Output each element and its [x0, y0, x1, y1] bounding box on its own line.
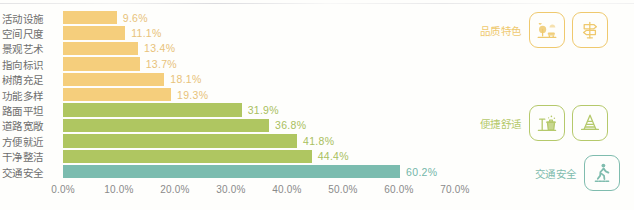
annotation-label: 品质特色: [470, 23, 522, 38]
category-label: 功能多样: [2, 87, 58, 102]
bar-row: 空间尺度 11.1%: [0, 25, 470, 40]
annotation-label: 交通安全: [525, 166, 577, 181]
pedestrian-crosswalk-icon: [584, 155, 620, 191]
category-label: 路面平坦: [2, 103, 58, 118]
x-tick-label: 40.0%: [272, 184, 301, 195]
bar-ample-shade: [63, 73, 164, 86]
annotation-group-comfort: 便捷舒适: [470, 105, 608, 141]
bar-row: 道路宽敞 36.8%: [0, 118, 470, 133]
category-label: 景观艺术: [2, 41, 58, 56]
bar-value-label: 19.3%: [177, 89, 208, 101]
x-tick-label: 30.0%: [216, 184, 245, 195]
annotation-group-safety: 交通安全: [525, 155, 620, 191]
bar-row: 指向标识 13.7%: [0, 56, 470, 71]
bar-row: 活动设施 9.6%: [0, 10, 470, 25]
annotation-column: 品质特色: [470, 0, 634, 210]
bar-row: 交通安全 60.2%: [0, 164, 470, 179]
park-landscape-icon: [529, 12, 565, 48]
category-label: 指向标识: [2, 56, 58, 71]
bar-activity-facilities: [63, 11, 117, 24]
bar-spatial-scale: [63, 26, 125, 39]
bar-row: 路面平坦 31.9%: [0, 102, 470, 117]
bar-row: 树荫充足 18.1%: [0, 72, 470, 87]
bar-flat-pavement: [63, 103, 242, 116]
bar-wide-roads: [63, 119, 269, 132]
bar-row: 功能多样 19.3%: [0, 87, 470, 102]
bar-directional-signage: [63, 57, 140, 70]
bar-value-label: 36.8%: [275, 119, 306, 131]
annotation-label: 便捷舒适: [470, 116, 522, 131]
trash-bin-cleaning-icon: [529, 105, 565, 141]
bar-clean-tidy: [63, 150, 312, 163]
bar-value-label: 11.1%: [131, 27, 162, 39]
bar-row: 方便就近 41.8%: [0, 133, 470, 148]
bar-row: 干净整洁 44.4%: [0, 149, 470, 164]
x-tick-label: 50.0%: [328, 184, 357, 195]
signpost-icon: [572, 12, 608, 48]
horizontal-bar-chart: 活动设施 9.6% 空间尺度 11.1% 景观艺术 13.4% 指向标识 13.…: [0, 0, 634, 210]
x-tick-label: 70.0%: [440, 184, 469, 195]
bar-landscape-art: [63, 42, 138, 55]
x-tick-label: 20.0%: [160, 184, 189, 195]
category-label: 交通安全: [2, 164, 58, 179]
traffic-cone-icon: [572, 105, 608, 141]
bar-value-label: 41.8%: [303, 135, 334, 147]
bar-value-label: 18.1%: [170, 73, 201, 85]
x-tick-label: 60.0%: [384, 184, 413, 195]
annotation-group-quality: 品质特色: [470, 12, 608, 48]
category-label: 干净整洁: [2, 149, 58, 164]
bar-value-label: 13.4%: [144, 42, 175, 54]
bar-functional-diversity: [63, 88, 171, 101]
category-label: 方便就近: [2, 133, 58, 148]
category-label: 树荫充足: [2, 72, 58, 87]
category-label: 活动设施: [2, 10, 58, 25]
bar-value-label: 44.4%: [318, 150, 349, 162]
category-label: 道路宽敞: [2, 118, 58, 133]
bar-convenient-proximity: [63, 134, 297, 147]
x-tick-label: 10.0%: [104, 184, 133, 195]
bar-traffic-safety: [63, 165, 400, 178]
x-axis: 0.0% 10.0% 20.0% 30.0% 40.0% 50.0% 60.0%…: [0, 182, 470, 202]
category-label: 空间尺度: [2, 26, 58, 41]
plot-area: 活动设施 9.6% 空间尺度 11.1% 景观艺术 13.4% 指向标识 13.…: [0, 10, 470, 182]
bar-row: 景观艺术 13.4%: [0, 41, 470, 56]
bar-value-label: 60.2%: [406, 166, 437, 178]
bar-value-label: 13.7%: [146, 58, 177, 70]
bar-value-label: 9.6%: [123, 12, 148, 24]
x-tick-label: 0.0%: [51, 184, 75, 195]
bar-value-label: 31.9%: [248, 104, 279, 116]
